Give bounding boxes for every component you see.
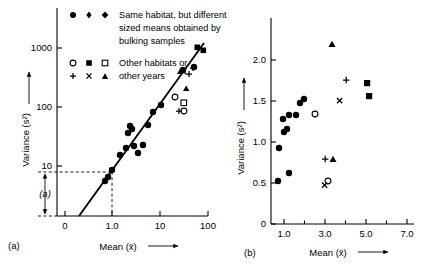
panel-a-ytick-label-10: 10 — [41, 160, 52, 171]
open-circle-icon — [70, 60, 76, 66]
data-point — [280, 116, 286, 122]
plus-icon — [70, 73, 76, 79]
legend-entry-0-line-2: bulking samples — [119, 36, 185, 46]
filled-diamond-icon — [102, 12, 109, 19]
data-point — [186, 71, 192, 77]
panel-b-ytick-label-0-5: 0.5 — [253, 177, 266, 188]
panel-b-x-axis-label: Mean (x̄) — [309, 247, 346, 258]
data-point — [330, 156, 337, 162]
data-point — [322, 156, 328, 162]
panel-a-label: (a) — [8, 240, 20, 251]
data-point — [286, 112, 292, 118]
panel-a-xtick-label-10: 10 — [155, 220, 166, 231]
legend-entry-2-markers — [70, 73, 108, 79]
legend-entry-0-line-0: Same habitat, but different — [119, 10, 227, 20]
data-point — [286, 170, 292, 176]
data-point — [201, 48, 207, 54]
filled-square-icon — [86, 60, 92, 66]
figure-container: 1000 100 10 0 1.0 10 100 Variance (s²) M… — [0, 0, 426, 267]
panel-a-y-axis-label: Variance (s²) — [20, 113, 31, 167]
data-point — [329, 41, 336, 47]
data-point — [293, 112, 299, 118]
legend-entry-1-markers — [70, 60, 108, 66]
data-point — [140, 142, 146, 148]
panel-b-label: (b) — [244, 247, 256, 258]
data-point — [343, 77, 349, 83]
panel-b-xtick-label-5-0: 5.0 — [359, 228, 372, 239]
data-point — [117, 152, 123, 158]
panel-b-axes — [271, 18, 414, 224]
panel-b-xtick-label-7-0: 7.0 — [400, 228, 413, 239]
panel-b-xtick-label-3-0: 3.0 — [318, 228, 331, 239]
panel-b-series-cross — [322, 98, 342, 188]
panel-b-series-filled-square — [364, 80, 372, 99]
panel-b-series-filled-circle — [275, 96, 307, 184]
data-point — [158, 102, 164, 108]
data-point — [275, 178, 281, 184]
legend-entry-1-line-0: Other habitats or — [119, 58, 187, 68]
panel-a-x-axis-label: Mean (x̄) — [99, 241, 136, 252]
figure-svg: 1000 100 10 0 1.0 10 100 Variance (s²) M… — [0, 0, 426, 267]
data-point — [129, 126, 135, 132]
panel-b-ytick-label-2-0: 2.0 — [253, 54, 266, 65]
data-point — [135, 150, 141, 156]
panel-a-xtick-label-1: 1.0 — [105, 220, 118, 231]
panel-b-y-axis-label: Variance (s²) — [235, 121, 246, 175]
data-point — [183, 85, 189, 91]
legend-entry-2-line-0: other years — [119, 71, 165, 81]
data-point — [181, 100, 187, 106]
panel-b-ytick-label-1-5: 1.5 — [253, 95, 266, 106]
panel-a-xtick-label-100: 100 — [200, 220, 216, 231]
data-point — [364, 80, 370, 86]
data-point — [150, 109, 156, 115]
data-point — [195, 45, 201, 51]
cross-icon — [87, 73, 92, 78]
filled-triangle-icon — [102, 73, 108, 79]
data-point — [366, 93, 372, 99]
legend: Same habitat, but different sized means … — [70, 10, 227, 81]
panel-a-series-open-square — [181, 100, 187, 106]
open-square-icon — [102, 60, 108, 66]
data-point — [109, 167, 115, 173]
filled-circle-icon — [70, 12, 76, 18]
legend-entry-0-markers — [70, 11, 108, 18]
data-point — [312, 111, 318, 117]
panel-a-intercept-label: (a) — [39, 188, 51, 199]
data-point — [284, 126, 290, 132]
panel-b-series-filled-triangle — [329, 41, 337, 162]
data-point — [191, 64, 197, 70]
panel-a-ytick-label-100: 100 — [36, 101, 52, 112]
data-point — [105, 174, 111, 180]
panel-a-ytick-label-1000: 1000 — [31, 42, 52, 53]
data-point — [172, 94, 178, 100]
panel-b-series-open-circle — [312, 111, 331, 184]
filled-diamond-small-icon — [86, 11, 91, 18]
panel-b-series-plus — [322, 77, 349, 162]
panel-b-ytick-label-1-0: 1.0 — [253, 136, 266, 147]
data-point — [131, 143, 137, 149]
data-point — [145, 122, 151, 128]
panel-b-ytick-label-0: 0 — [261, 218, 266, 229]
panel-b-xtick-label-1-0: 1.0 — [277, 228, 290, 239]
data-point — [276, 145, 282, 151]
data-point — [337, 98, 342, 103]
data-point — [322, 183, 327, 188]
data-point — [123, 145, 129, 151]
legend-entry-0-line-1: sized means obtained by — [119, 23, 221, 33]
panel-a-xtick-label-0: 0 — [62, 220, 67, 231]
data-point — [176, 108, 182, 114]
panel-b: 0 0.5 1.0 1.5 2.0 1.0 3.0 5.0 7.0 Varian… — [235, 18, 414, 258]
data-point — [301, 96, 307, 102]
